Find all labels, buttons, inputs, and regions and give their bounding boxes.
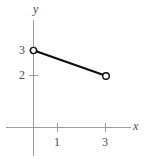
- open-endpoint-left: [30, 47, 36, 53]
- y-axis-label: y: [33, 3, 38, 15]
- graph-figure: y x 3 2 1 3: [0, 0, 153, 164]
- x-tick-label-1: 1: [54, 136, 60, 148]
- x-tick-label-3: 3: [102, 136, 108, 148]
- y-tick-label-2: 2: [19, 69, 25, 81]
- y-tick-label-3: 3: [19, 44, 25, 56]
- line-segment: [34, 51, 105, 76]
- plot-area: [0, 0, 153, 164]
- x-axis-label: x: [133, 120, 138, 132]
- open-endpoint-right: [103, 73, 110, 80]
